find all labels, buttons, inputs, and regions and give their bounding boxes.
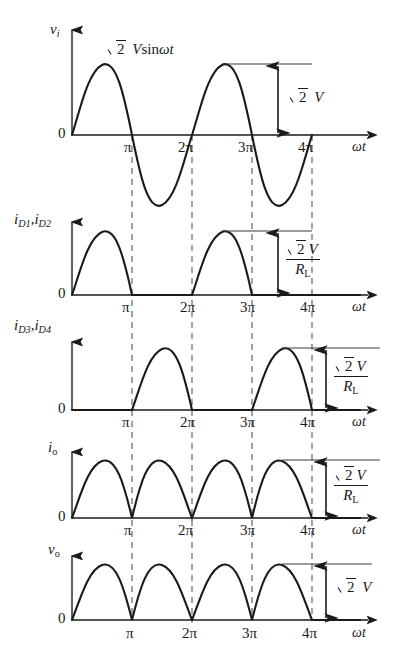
fraction-numerator: 2V — [334, 357, 368, 376]
vo-axis-label: vo — [48, 542, 60, 559]
vo-tick-3pi: 3π — [242, 626, 257, 641]
id3-zero-label: 0 — [58, 401, 66, 416]
vi-amplitude-annotation: 2 V — [290, 88, 323, 106]
io-tick-2pi: 2π — [178, 523, 193, 538]
vo-waveform — [72, 564, 360, 620]
fraction-denominator: RL — [334, 376, 368, 396]
id3-waveform — [72, 348, 360, 410]
vi-tick-2pi: 2π — [178, 140, 193, 155]
io-zero-label: 0 — [58, 509, 66, 524]
fraction-numerator: 2V — [286, 240, 320, 259]
id1-tick-pi: π — [122, 300, 130, 315]
dashed-gridlines — [132, 135, 312, 620]
io-tick-3pi: 3π — [240, 523, 255, 538]
io-tick-4pi: 4π — [300, 523, 315, 538]
id3-id4-axis-label: iD3,iD4 — [14, 318, 51, 335]
id3-id4-amplitude-annotation: 2V RL — [334, 357, 368, 396]
vi-zero-label: 0 — [58, 126, 66, 141]
io-waveform — [72, 460, 360, 518]
id3-tick-2pi: 2π — [180, 415, 195, 430]
vo-x-axis-label: ωt — [352, 626, 366, 640]
vi-tick-pi: π — [124, 140, 132, 155]
io-axis-label: io — [48, 440, 57, 457]
vi-axis-label: vi — [50, 22, 60, 39]
fraction-denominator: RL — [334, 485, 368, 505]
vo-tick-2pi: 2π — [182, 626, 197, 641]
vi-tick-4pi: 4π — [298, 140, 313, 155]
io-x-axis-label: ωt — [352, 523, 366, 537]
id3-x-axis-label: ωt — [352, 415, 366, 429]
fraction-numerator: 2V — [334, 466, 368, 485]
id1-zero-label: 0 — [58, 286, 66, 301]
id3-tick-4pi: 4π — [300, 415, 315, 430]
vi-x-axis-label: ωt — [352, 140, 366, 154]
id1-id2-amplitude-annotation: 2V RL — [286, 240, 320, 279]
vo-tick-pi: π — [126, 626, 134, 641]
id1-id2-axis-label: iD1,iD2 — [14, 212, 51, 229]
vi-equation-label: 2 Vsinωt — [108, 40, 174, 58]
id1-x-axis-label: ωt — [352, 300, 366, 314]
panel-id1-id2 — [72, 222, 368, 295]
panel-vo — [72, 556, 372, 620]
vo-amplitude-annotation: 2 V — [338, 578, 371, 596]
figure-canvas: vi 2 Vsinωt 2 V 0 π 2π 3π 4π ωt iD1,iD2 … — [0, 0, 404, 662]
id3-tick-pi: π — [122, 415, 130, 430]
io-amplitude-annotation: 2V RL — [334, 466, 368, 505]
vi-tick-3pi: 3π — [238, 140, 253, 155]
vo-tick-4pi: 4π — [302, 626, 317, 641]
id1-tick-3pi: 3π — [240, 300, 255, 315]
fraction-denominator: RL — [286, 259, 320, 279]
id1-tick-2pi: 2π — [180, 300, 195, 315]
id1-tick-4pi: 4π — [300, 300, 315, 315]
vo-zero-label: 0 — [58, 611, 66, 626]
id3-tick-3pi: 3π — [240, 415, 255, 430]
waveform-svg — [0, 0, 404, 662]
io-tick-pi: π — [124, 523, 132, 538]
